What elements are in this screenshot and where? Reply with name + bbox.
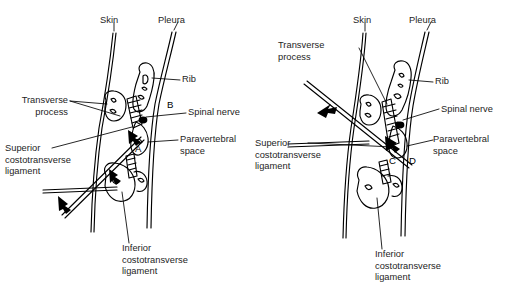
label-paravertebral-space: Paravertebral space (433, 134, 489, 157)
label-pleura: Pleura (409, 15, 436, 27)
needle-horizontal-a (43, 187, 117, 193)
label-superior-costotransverse-ligament: Superior costotransverse ligament (5, 143, 71, 178)
rib-upper-body (133, 63, 154, 112)
leader-paravertebral-space (407, 140, 433, 146)
leader-rib (152, 78, 180, 80)
label-skin: Skin (100, 15, 118, 27)
rib-upper-body (386, 61, 411, 116)
label-spinal-nerve: Spinal nerve (188, 107, 240, 119)
label-superior-costotransverse-ligament: Superior costotransverse ligament (255, 138, 321, 173)
label-spinal-nerve: Spinal nerve (441, 104, 493, 116)
label-rib: Rib (182, 74, 196, 86)
direction-arrow-lower (58, 196, 71, 214)
label-transverse-process: Transverse process (278, 40, 324, 63)
leader-paravertebral-space (148, 140, 178, 142)
figure-paravertebral-block: Skin Pleura Rib Spinal nerve Paravertebr… (0, 0, 505, 287)
label-transverse-process: Transverse process (10, 95, 68, 118)
pleura-contour-line (147, 32, 176, 228)
label-paravertebral-space: Paravertebral space (180, 134, 236, 157)
spinal-nerve-dot (396, 122, 405, 129)
inferior-costotransverse-ligament-band (126, 154, 137, 178)
label-rib: Rib (435, 76, 449, 88)
direction-arrow-superior (317, 104, 337, 118)
left-panel: Skin Pleura Rib Spinal nerve Paravertebr… (0, 0, 252, 287)
marker-c: C (389, 155, 396, 166)
leader-spinal-nerve (146, 113, 186, 117)
label-pleura: Pleura (158, 15, 185, 27)
inferior-rib-body (357, 167, 402, 208)
skin-contour-line (343, 33, 366, 238)
transverse-process-body (360, 95, 381, 125)
spinal-nerve-dot (139, 117, 148, 124)
pleura-contour-line (401, 32, 429, 236)
marker-d: D (409, 155, 416, 166)
marker-a: A (135, 143, 141, 154)
label-inferior-costotransverse-ligament: Inferior costotransverse ligament (375, 249, 441, 284)
marker-b: B (167, 99, 173, 110)
leader-rib (409, 80, 433, 82)
label-skin: Skin (353, 15, 371, 27)
label-inferior-costotransverse-ligament: Inferior costotransverse ligament (122, 243, 188, 278)
inferior-rib-body (105, 163, 148, 201)
right-panel: Skin Pleura Rib Spinal nerve Paravertebr… (253, 0, 505, 287)
